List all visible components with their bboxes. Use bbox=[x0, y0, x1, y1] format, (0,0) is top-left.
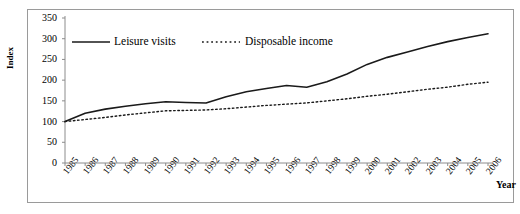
series-line-leisure-visits bbox=[65, 34, 488, 122]
axis-ticks bbox=[62, 18, 488, 166]
axis-lines bbox=[65, 16, 492, 163]
chart-plot-area bbox=[0, 0, 520, 214]
series-line-disposable-income bbox=[65, 82, 488, 121]
data-series-lines bbox=[65, 34, 488, 122]
chart-figure: Index 050100150200250300350 198519861987… bbox=[0, 0, 520, 214]
